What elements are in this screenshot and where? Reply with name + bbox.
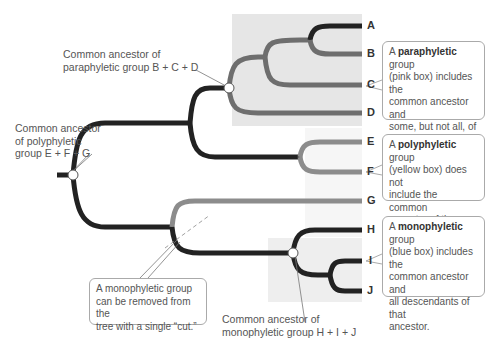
callout-title: A monophyletic group [389,221,478,246]
polyphyletic-ancestor-label: Common ancestor of polyphyletic group E … [15,122,101,160]
callout-line: common ancestor and [389,96,478,121]
polyphyletic-callout: A polyphyletic group (yellow box) does n… [382,134,485,201]
callout-line: A monophyletic group [96,283,200,296]
label-line: monophyletic group H + I + J [222,326,356,339]
label-line: group E + F + G [15,147,101,160]
label-line: of polyphyletic [15,135,101,148]
leaf-j: J [367,284,373,296]
leaf-h: H [367,223,375,235]
callout-line: (blue box) includes the [389,246,478,271]
leaf-f: F [367,165,374,177]
monophyletic-ancestor-node [288,248,298,258]
paraphyletic-ancestor-node [224,83,234,93]
callout-line: can be removed from the [96,296,200,321]
callout-line: ancestor. [389,321,478,334]
leaf-a: A [367,19,375,31]
label-line: Common ancestor [15,122,101,135]
callout-line: common ancestor and [389,271,478,296]
paraphyletic-ancestor-label: Common ancestor of paraphyletic group B … [63,48,198,73]
callout-line: (pink box) includes the [389,71,478,96]
polyphyletic-ancestor-node [68,170,78,180]
monophyletic-ancestor-label: Common ancestor of monophyletic group H … [222,313,356,338]
callout-title: A polyphyletic group [389,139,478,164]
leaf-g: G [367,194,376,206]
callout-line: include the common [389,189,478,214]
callout-line: (yellow box) does not [389,164,478,189]
leaf-c: C [367,78,375,90]
leaf-e: E [367,135,374,147]
leaf-b: B [367,47,375,59]
leaf-i: I [369,254,372,266]
callout-title: A paraphyletic group [389,46,478,71]
label-line: paraphyletic group B + C + D [63,61,198,74]
leaf-d: D [367,106,375,118]
callout-line: all descendants of that [389,296,478,321]
label-line: Common ancestor of [222,313,356,326]
label-line: Common ancestor of [63,48,198,61]
cut-callout: A monophyletic group can be removed from… [89,278,207,325]
callout-line: tree with a single “cut.” [96,321,200,334]
monophyletic-callout: A monophyletic group (blue box) includes… [382,216,485,297]
paraphyletic-callout: A paraphyletic group (pink box) includes… [382,41,485,120]
paraphyletic-box [232,14,362,126]
